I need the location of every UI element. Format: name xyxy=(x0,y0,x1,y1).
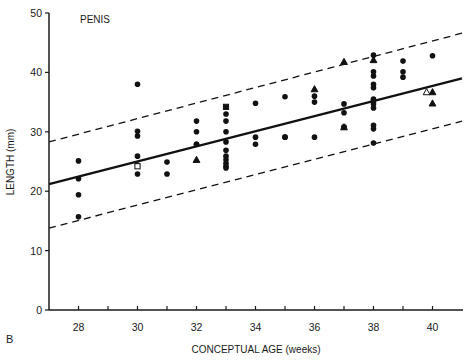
circle-point xyxy=(371,85,377,91)
scatter-chart: 0102030405028303234363840 PENIS CONCEPTU… xyxy=(0,0,465,360)
circle-point xyxy=(135,153,141,159)
panel-label: B xyxy=(6,333,13,345)
axes xyxy=(49,13,463,310)
circle-point xyxy=(253,141,259,147)
circle-point xyxy=(430,53,436,59)
circle-point xyxy=(194,118,200,124)
regression-line xyxy=(49,78,462,184)
circle-point xyxy=(371,140,377,146)
circle-point xyxy=(371,73,377,79)
circle-point xyxy=(400,58,406,64)
y-tick-label: 30 xyxy=(30,126,42,138)
y-tick-label: 50 xyxy=(30,7,42,19)
circle-point xyxy=(282,94,288,100)
circle-point xyxy=(253,100,259,106)
x-tick-label: 28 xyxy=(73,321,85,333)
circle-point xyxy=(253,134,259,140)
x-tick-label: 38 xyxy=(368,321,380,333)
y-tick-label: 20 xyxy=(30,185,42,197)
circle-point xyxy=(164,171,170,177)
x-axis-title: CONCEPTUAL AGE (weeks) xyxy=(191,344,320,355)
x-tick-label: 30 xyxy=(132,321,144,333)
circle-point xyxy=(76,158,82,164)
triangle-point xyxy=(311,86,318,92)
circle-point xyxy=(312,99,318,105)
circle-point xyxy=(223,129,229,135)
circle-point xyxy=(194,141,200,147)
circle-point xyxy=(282,134,288,140)
circle-point xyxy=(76,192,82,198)
square-point xyxy=(223,104,228,109)
data-points xyxy=(76,52,436,219)
triangle-point xyxy=(429,89,436,95)
circle-point xyxy=(135,171,141,177)
y-tick-label: 40 xyxy=(30,66,42,78)
circle-point xyxy=(400,74,406,80)
open-triangle-point xyxy=(423,89,430,95)
circle-point xyxy=(223,111,229,117)
circle-point xyxy=(371,105,377,111)
y-tick-label: 0 xyxy=(36,304,42,316)
circle-point xyxy=(312,134,318,140)
circle-point xyxy=(223,165,229,171)
upper-bound-line xyxy=(49,33,462,142)
fit-lines xyxy=(49,33,462,228)
circle-point xyxy=(135,81,141,87)
circle-point xyxy=(76,176,82,182)
triangle-point xyxy=(193,156,200,162)
x-tick-label: 40 xyxy=(427,321,439,333)
circle-point xyxy=(194,129,200,135)
circle-point xyxy=(312,93,318,99)
circle-point xyxy=(371,126,377,132)
circle-point xyxy=(76,214,82,220)
triangle-point xyxy=(341,58,348,64)
triangle-point xyxy=(370,57,377,63)
circle-point xyxy=(223,118,229,124)
triangle-point xyxy=(429,100,436,106)
x-tick-label: 32 xyxy=(191,321,203,333)
circle-point xyxy=(341,110,347,116)
x-tick-label: 34 xyxy=(250,321,262,333)
circle-point xyxy=(223,147,229,153)
y-tick-label: 10 xyxy=(30,245,42,257)
chart-title: PENIS xyxy=(80,14,110,25)
x-tick-label: 36 xyxy=(309,321,321,333)
circle-point xyxy=(400,69,406,75)
open-square-point xyxy=(135,164,140,169)
circle-point xyxy=(135,133,141,139)
circle-point xyxy=(223,139,229,145)
circle-point xyxy=(341,101,347,107)
y-axis-title: LENGTH (mm) xyxy=(5,129,16,196)
circle-point xyxy=(164,159,170,165)
